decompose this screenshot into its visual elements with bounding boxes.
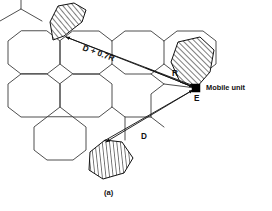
- label-d-plus-0-7r: D + 0.7R: [81, 43, 115, 63]
- label-e: E: [194, 94, 200, 103]
- cell-edge-right-mid: [151, 84, 164, 117]
- cell-edge-lower-right: [112, 107, 151, 117]
- label-mobile-unit: Mobile unit: [206, 83, 246, 92]
- label-r: R: [172, 69, 178, 78]
- cell-bottom-left: [34, 117, 86, 160]
- cell-cochannel-bottom: [89, 140, 133, 179]
- cell-stub-topleft-2: [21, 9, 42, 21]
- line-d-return: [106, 90, 193, 142]
- cell-right-upper: [112, 31, 164, 74]
- figure-caption: (a): [104, 188, 114, 197]
- figure-container: D + 0.7R R D E Mobile unit (a): [0, 0, 272, 211]
- cellular-interference-diagram: D + 0.7R R D E Mobile unit (a): [0, 0, 272, 211]
- cell-mid-left: [8, 74, 60, 117]
- cell-stub-topleft: [0, 0, 21, 21]
- mobile-unit-marker: [192, 84, 200, 92]
- cell-center-lower: [60, 74, 112, 117]
- cell-edge-right-tail: [151, 117, 164, 127]
- label-d: D: [141, 132, 147, 141]
- cochannel-cells: [50, 3, 214, 179]
